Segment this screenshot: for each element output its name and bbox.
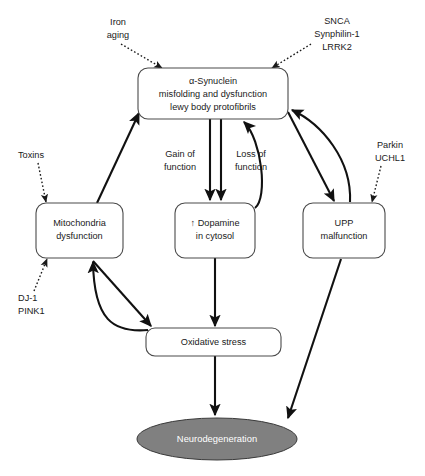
annotation-iron-aging: Iron aging [107,17,129,40]
edge-toxins-to-mitochondria [38,163,46,202]
edge-parkin-uchl1-to-upp [372,166,381,202]
edge-upp-to-synuclein [292,110,350,202]
node-mitochondria[interactable]: Mitochondria dysfunction [36,203,123,258]
annotation-toxins-label: Toxins [18,150,44,160]
annotation-gain-of-function-line1: Gain of [165,149,195,159]
node-synuclein-line3: lewy body protofibrils [170,102,256,112]
node-synuclein[interactable]: α-Synuclein misfolding and dysfunction l… [138,68,288,119]
annotation-iron-aging-line2: aging [107,30,129,40]
node-oxidative-stress-label: Oxidative stress [181,337,247,347]
annotation-snca-line2: Synphilin-1 [314,29,359,39]
annotation-loss-of-function: Loss of function [235,149,267,172]
edge-mitochondria-to-oxidative [93,261,151,326]
annotation-loss-of-function-line2: function [235,162,267,172]
node-mitochondria-line2: dysfunction [56,231,102,241]
annotation-dj1-pink1: DJ-1 PINK1 [18,293,45,316]
edge-mitochondria-to-synuclein [97,113,139,203]
edge-snca-to-synuclein [272,44,311,68]
edge-upp-to-neurodegeneration [288,259,341,418]
node-upp[interactable]: UPP malfunction [303,203,385,258]
annotation-dj1-pink1-line2: PINK1 [18,306,45,316]
node-mitochondria-line1: Mitochondria [53,218,106,228]
edge-synuclein-to-upp [288,112,334,201]
edge-iron-aging-to-synuclein [121,44,162,68]
annotation-dj1-pink1-line1: DJ-1 [18,293,37,303]
node-dopamine-line1: ↑ Dopamine [190,218,239,228]
node-upp-line2: malfunction [321,231,368,241]
node-neurodegeneration-label: Neurodegeneration [177,433,257,444]
annotation-snca-line1: SNCA [324,16,350,26]
annotations-layer: Iron aging SNCA Synphilin-1 LRRK2 Toxins… [18,16,405,316]
annotation-snca: SNCA Synphilin-1 LRRK2 [314,16,359,52]
annotation-parkin-uchl1-line1: Parkin [377,140,403,150]
node-synuclein-line1: α-Synuclein [189,76,237,86]
annotation-toxins: Toxins [18,150,44,160]
node-dopamine[interactable]: ↑ Dopamine in cytosol [175,203,255,258]
pathway-diagram: α-Synuclein misfolding and dysfunction l… [0,0,425,476]
node-upp-line1: UPP [335,218,354,228]
edge-oxidative-to-mitochondria [93,262,148,330]
annotation-parkin-uchl1: Parkin UCHL1 [375,140,405,163]
node-synuclein-line2: misfolding and dysfunction [159,89,267,99]
node-neurodegeneration[interactable]: Neurodegeneration [137,418,297,460]
node-dopamine-line2: in cytosol [196,231,234,241]
annotation-gain-of-function-line2: function [164,162,196,172]
annotation-loss-of-function-line1: Loss of [236,149,266,159]
annotation-snca-line3: LRRK2 [322,42,352,52]
annotation-gain-of-function: Gain of function [164,149,196,172]
annotation-parkin-uchl1-line2: UCHL1 [375,153,405,163]
annotation-iron-aging-line1: Iron [110,17,126,27]
node-oxidative-stress[interactable]: Oxidative stress [146,328,281,356]
edge-dj1-pink1-to-mitochondria [34,259,47,291]
